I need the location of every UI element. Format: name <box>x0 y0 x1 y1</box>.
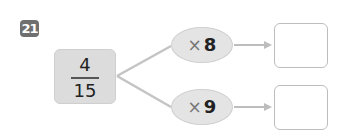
arrow-icon <box>234 41 272 49</box>
operation-times-9: ×9 <box>171 89 233 125</box>
answer-box-2[interactable] <box>274 85 328 130</box>
operation-times-8: ×8 <box>171 27 233 63</box>
operation-value: 9 <box>204 96 217 117</box>
multiply-icon: × <box>188 97 202 117</box>
arrow-icon <box>234 103 272 111</box>
answer-box-1[interactable] <box>274 23 328 68</box>
multiply-icon: × <box>188 35 202 55</box>
operation-value: 8 <box>204 34 217 55</box>
